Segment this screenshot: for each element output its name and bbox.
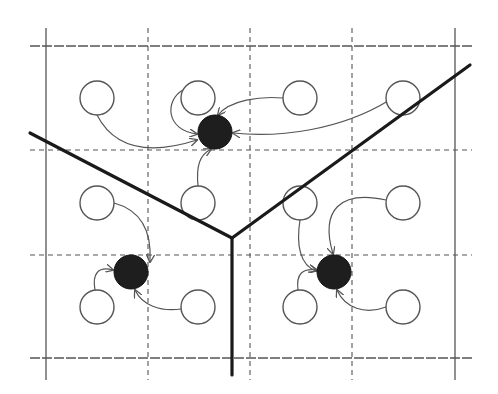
data-point-node <box>283 290 317 324</box>
assignment-arc <box>97 115 197 148</box>
data-point-node <box>386 186 420 220</box>
assignment-arc <box>329 197 386 254</box>
data-point-node <box>283 186 317 220</box>
data-point-node <box>283 81 317 115</box>
diagram-svg <box>0 0 498 394</box>
data-point-node <box>181 81 215 115</box>
assignment-arc <box>298 270 317 290</box>
centroid-node <box>198 115 232 149</box>
data-point-node <box>80 290 114 324</box>
assignment-arc <box>114 203 150 262</box>
data-point-node <box>80 81 114 115</box>
voronoi-boundary <box>232 65 470 238</box>
assignment-arc <box>135 290 181 310</box>
assignment-arc <box>299 220 316 271</box>
centroid-node <box>317 255 351 289</box>
centroid-node <box>114 255 148 289</box>
data-point-node <box>386 81 420 115</box>
clustering-diagram <box>0 0 498 394</box>
assignment-arc <box>94 269 113 290</box>
data-point-node <box>386 290 420 324</box>
data-point-node <box>181 290 215 324</box>
assignment-arc <box>198 149 211 186</box>
data-point-node <box>80 186 114 220</box>
assignment-arc <box>337 290 386 310</box>
voronoi-boundary <box>30 133 232 238</box>
